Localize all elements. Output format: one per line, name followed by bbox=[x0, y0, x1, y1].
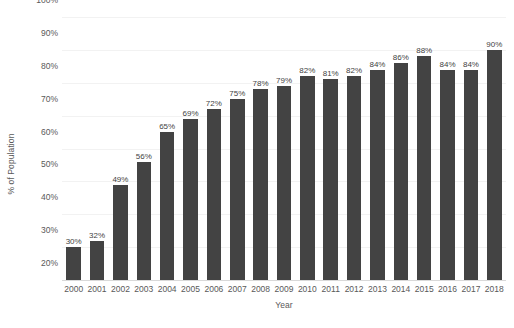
y-axis-title: % of Population bbox=[0, 0, 22, 328]
bar-value-label: 30% bbox=[66, 237, 82, 246]
bar-group[interactable]: 72% bbox=[207, 17, 221, 280]
bar-group[interactable]: 86% bbox=[394, 17, 408, 280]
x-axis-tick-label: 2016 bbox=[436, 283, 459, 295]
x-axis-tick-label: 2013 bbox=[366, 283, 389, 295]
x-axis-tick-label: 2018 bbox=[483, 283, 506, 295]
bar[interactable] bbox=[300, 76, 314, 280]
bar[interactable] bbox=[440, 70, 454, 280]
bar-group[interactable]: 90% bbox=[487, 17, 501, 280]
bar-group[interactable]: 84% bbox=[370, 17, 384, 280]
bar[interactable] bbox=[207, 109, 221, 280]
bar-value-label: 78% bbox=[253, 79, 269, 88]
x-axis-tick-label: 2011 bbox=[319, 283, 342, 295]
bar-group[interactable]: 88% bbox=[417, 17, 431, 280]
x-axis-title: Year bbox=[62, 300, 506, 310]
bar[interactable] bbox=[160, 132, 174, 280]
x-axis-tick-label: 2004 bbox=[155, 283, 178, 295]
bar[interactable] bbox=[137, 162, 151, 280]
x-axis-tick-labels: 2000200120022003200420052006200720082009… bbox=[62, 283, 506, 297]
bar[interactable] bbox=[417, 56, 431, 280]
bar-group[interactable]: 30% bbox=[66, 17, 80, 280]
bar[interactable] bbox=[487, 50, 501, 280]
bar-group[interactable]: 32% bbox=[90, 17, 104, 280]
bar[interactable] bbox=[347, 76, 361, 280]
bar-group[interactable]: 82% bbox=[347, 17, 361, 280]
x-axis-tick-label: 2009 bbox=[272, 283, 295, 295]
bar-group[interactable]: 84% bbox=[440, 17, 454, 280]
bar[interactable] bbox=[253, 89, 267, 280]
bar-group[interactable]: 49% bbox=[113, 17, 127, 280]
y-axis-tick-label: 40% bbox=[22, 192, 58, 202]
x-axis-tick-label: 2000 bbox=[62, 283, 85, 295]
bar-value-label: 65% bbox=[159, 122, 175, 131]
bar-group[interactable]: 69% bbox=[183, 17, 197, 280]
x-axis-tick-label: 2001 bbox=[85, 283, 108, 295]
y-axis-tick-label: 70% bbox=[22, 94, 58, 104]
x-axis-tick-label: 2014 bbox=[389, 283, 412, 295]
y-axis-tick-label: 80% bbox=[22, 61, 58, 71]
bar-group[interactable]: 78% bbox=[253, 17, 267, 280]
bar[interactable] bbox=[464, 70, 478, 280]
bar-value-label: 72% bbox=[206, 99, 222, 108]
bar[interactable] bbox=[394, 63, 408, 280]
y-axis-tick-label: 30% bbox=[22, 225, 58, 235]
bar-value-label: 75% bbox=[229, 89, 245, 98]
bar[interactable] bbox=[90, 241, 104, 280]
x-axis-tick-label: 2008 bbox=[249, 283, 272, 295]
x-axis-tick-label: 2007 bbox=[226, 283, 249, 295]
bar-group[interactable]: 82% bbox=[300, 17, 314, 280]
x-axis-tick-label: 2012 bbox=[342, 283, 365, 295]
bar-group[interactable]: 65% bbox=[160, 17, 174, 280]
gridline bbox=[62, 280, 506, 281]
y-axis-tick-label: 60% bbox=[22, 127, 58, 137]
plot-area: 30%32%49%56%65%69%72%75%78%79%82%81%82%8… bbox=[62, 17, 506, 280]
bar-value-label: 82% bbox=[346, 66, 362, 75]
bar-value-label: 82% bbox=[299, 66, 315, 75]
bar-value-label: 32% bbox=[89, 231, 105, 240]
x-axis-tick-label: 2005 bbox=[179, 283, 202, 295]
bar-value-label: 56% bbox=[136, 152, 152, 161]
bar-group[interactable]: 84% bbox=[464, 17, 478, 280]
bar-value-label: 84% bbox=[369, 60, 385, 69]
bar-group[interactable]: 81% bbox=[323, 17, 337, 280]
bars: 30%32%49%56%65%69%72%75%78%79%82%81%82%8… bbox=[62, 17, 506, 280]
bar-value-label: 84% bbox=[440, 60, 456, 69]
y-axis-tick-label: 90% bbox=[22, 28, 58, 38]
x-axis-tick-label: 2015 bbox=[413, 283, 436, 295]
bar-value-label: 86% bbox=[393, 53, 409, 62]
y-axis-tick-label: 50% bbox=[22, 159, 58, 169]
bar[interactable] bbox=[370, 70, 384, 280]
bar-group[interactable]: 56% bbox=[137, 17, 151, 280]
bar-value-label: 69% bbox=[183, 109, 199, 118]
bar[interactable] bbox=[113, 185, 127, 280]
bar[interactable] bbox=[66, 247, 80, 280]
bar-value-label: 90% bbox=[486, 40, 502, 49]
bar-group[interactable]: 79% bbox=[277, 17, 291, 280]
bar-chart: % of Population 100%90%80%70%60%50%40%30… bbox=[0, 0, 514, 328]
x-axis-tick-label: 2006 bbox=[202, 283, 225, 295]
x-axis-tick-label: 2002 bbox=[109, 283, 132, 295]
bar-value-label: 84% bbox=[463, 60, 479, 69]
bar-value-label: 81% bbox=[323, 69, 339, 78]
bar[interactable] bbox=[183, 119, 197, 280]
x-axis-tick-label: 2010 bbox=[296, 283, 319, 295]
x-axis-tick-label: 2003 bbox=[132, 283, 155, 295]
bar-value-label: 49% bbox=[112, 175, 128, 184]
bar[interactable] bbox=[230, 99, 244, 280]
y-axis-tick-label: 100% bbox=[22, 0, 58, 5]
bar-group[interactable]: 75% bbox=[230, 17, 244, 280]
x-axis-tick-label: 2017 bbox=[459, 283, 482, 295]
bar[interactable] bbox=[323, 79, 337, 280]
y-axis-tick-labels: 100%90%80%70%60%50%40%30%20% bbox=[22, 0, 58, 297]
bar-value-label: 88% bbox=[416, 46, 432, 55]
y-axis-tick-label: 20% bbox=[22, 258, 58, 268]
bar[interactable] bbox=[277, 86, 291, 280]
bar-value-label: 79% bbox=[276, 76, 292, 85]
